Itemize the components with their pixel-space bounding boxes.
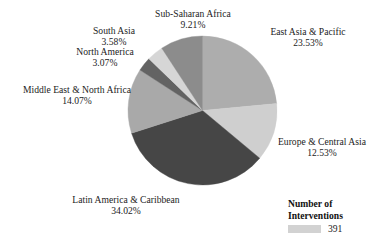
slice-label-south-asia: South Asia 3.58% <box>58 25 170 48</box>
slice-label-name: South Asia <box>58 25 170 36</box>
legend-entry: 391 <box>288 223 384 234</box>
slice-label-middle-east-north-africa: Middle East & North Africa 14.07% <box>2 84 152 107</box>
slice-label-latin-america-caribbean: Latin America & Caribbean 34.02% <box>42 194 210 217</box>
slice-label-name: Europe & Central Asia <box>260 136 384 147</box>
slice-label-percent: 14.07% <box>2 95 152 106</box>
slice-label-europe-central-asia: Europe & Central Asia 12.53% <box>260 136 384 159</box>
legend-title-line2: Interventions <box>288 210 384 222</box>
legend-value: 391 <box>328 223 342 234</box>
slice-label-name: East Asia & Pacific <box>248 26 368 37</box>
chart-legend: Number of Interventions 391 <box>288 198 384 234</box>
slice-label-percent: 23.53% <box>248 37 368 48</box>
slice-label-east-asia-pacific: East Asia & Pacific 23.53% <box>248 26 368 49</box>
slice-label-name: Sub-Saharan Africa <box>108 8 278 19</box>
slice-label-percent: 3.07% <box>46 57 164 68</box>
slice-label-name: North America <box>46 46 164 57</box>
legend-color-swatch <box>288 225 321 233</box>
slice-label-percent: 12.53% <box>260 147 384 158</box>
pie-chart: Sub-Saharan Africa 9.21% South Asia 3.58… <box>0 0 386 249</box>
legend-title-line1: Number of <box>288 198 384 210</box>
slice-label-name: Middle East & North Africa <box>2 84 152 95</box>
slice-label-percent: 34.02% <box>42 205 210 216</box>
slice-label-name: Latin America & Caribbean <box>42 194 210 205</box>
slice-label-north-america: North America 3.07% <box>46 46 164 69</box>
